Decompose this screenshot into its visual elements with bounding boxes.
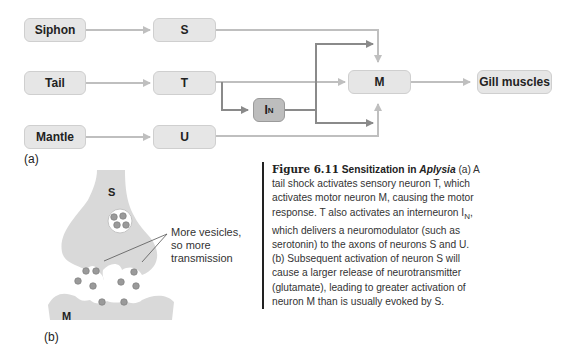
panel-label-b: (b)	[44, 330, 59, 344]
callout-line-2: so more	[171, 239, 241, 252]
caption-body-2: , which delivers a neuromodulator (such …	[272, 207, 473, 307]
postsynaptic-label-m: M	[62, 310, 71, 322]
figure-title-in: in	[407, 164, 416, 175]
figure-title: Sensitization	[342, 164, 405, 175]
figure-organism: Aplysia	[419, 164, 455, 175]
figure-caption: Figure 6.11 Sensitization in Aplysia (a)…	[262, 162, 482, 309]
callout-line-3: transmission	[171, 252, 241, 265]
figure-number: Figure 6.11	[272, 162, 339, 176]
presynaptic-label-s: S	[108, 186, 115, 198]
callout-line-1: More vesicles,	[171, 226, 241, 239]
vesicle-callout: More vesicles, so more transmission	[171, 226, 241, 265]
